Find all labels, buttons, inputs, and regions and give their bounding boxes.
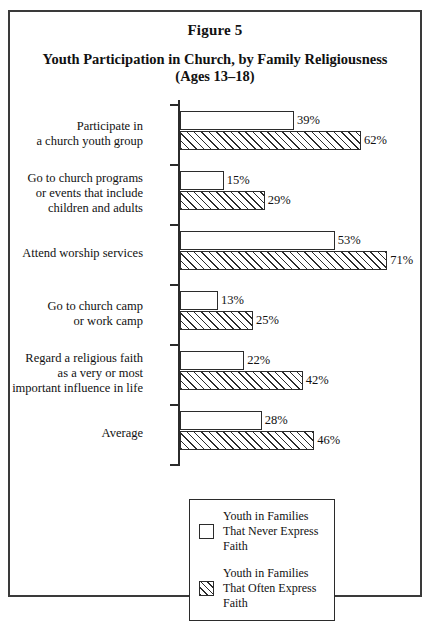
chart-legend: Youth in Families That Never Express Fai… [189,499,335,621]
chart-title: Youth Participation in Church, by Family… [32,51,398,86]
open-square-swatch-icon [199,524,214,539]
bar-pair: 22%42% [180,351,329,390]
bar-pair: 28%46% [180,411,340,450]
bar-value-label: 62% [364,133,387,148]
bar-row: 62% [180,131,387,150]
legend-item-label: Youth in Families That Often Express Fai… [223,566,326,611]
bar-value-label: 46% [317,433,340,448]
bar-row: 22% [180,351,329,370]
bar-row: 15% [180,171,291,190]
category-label: Regard a religious faithas a very or mos… [0,351,143,397]
legend-item: Youth in Families That Never Express Fai… [199,509,326,554]
bar-row: 29% [180,191,291,210]
bar-group: Regard a religious faithas a very or mos… [10,344,420,404]
category-label: Participate ina church youth group [0,119,143,150]
bar-pair: 15%29% [180,171,291,210]
bar-often-express-faith [180,191,265,210]
bar-often-express-faith [180,311,253,330]
bar-group: Go to church programsor events that incl… [10,164,420,224]
bar-row: 39% [180,111,387,130]
hatched-square-swatch-icon [199,581,214,596]
bar-often-express-faith [180,251,387,270]
bar-pair: 13%25% [180,291,279,330]
bar-value-label: 15% [227,173,250,188]
bar-row: 28% [180,411,340,430]
bar-group: Go to church campor work camp13%25% [10,284,420,344]
bar-value-label: 25% [256,313,279,328]
bar-value-label: 39% [297,113,320,128]
category-label: Go to church campor work camp [0,299,143,330]
bar-row: 42% [180,371,329,390]
legend-item-label: Youth in Families That Never Express Fai… [223,509,326,554]
bar-value-label: 71% [390,253,413,268]
bar-row: 25% [180,311,279,330]
bar-value-label: 29% [268,193,291,208]
bar-never-express-faith [180,111,294,130]
bar-row: 71% [180,251,413,270]
bar-never-express-faith [180,351,244,370]
bar-row: 13% [180,291,279,310]
figure-number-label: Figure 5 [10,22,420,39]
bar-often-express-faith [180,371,303,390]
bar-never-express-faith [180,171,224,190]
bar-never-express-faith [180,231,335,250]
figure-frame: Figure 5 Youth Participation in Church, … [8,10,422,597]
bar-value-label: 53% [338,233,361,248]
bar-value-label: 42% [306,373,329,388]
bar-group: Attend worship services53%71% [10,224,420,284]
bar-row: 46% [180,431,340,450]
bar-group: Average28%46% [10,404,420,464]
legend-item: Youth in Families That Often Express Fai… [199,566,326,611]
category-label: Attend worship services [0,246,143,261]
bar-never-express-faith [180,291,218,310]
plot-area: Participate ina church youth group39%62%… [10,100,420,472]
axis-tick [170,464,178,466]
category-label: Average [0,426,143,441]
bar-value-label: 28% [265,413,288,428]
bar-often-express-faith [180,431,314,450]
category-label: Go to church programsor events that incl… [0,171,143,217]
bar-group: Participate ina church youth group39%62% [10,104,420,164]
bar-often-express-faith [180,131,361,150]
bar-pair: 39%62% [180,111,387,150]
bar-value-label: 13% [221,293,244,308]
bar-pair: 53%71% [180,231,413,270]
bar-never-express-faith [180,411,262,430]
bar-row: 53% [180,231,413,250]
bar-value-label: 22% [247,353,270,368]
